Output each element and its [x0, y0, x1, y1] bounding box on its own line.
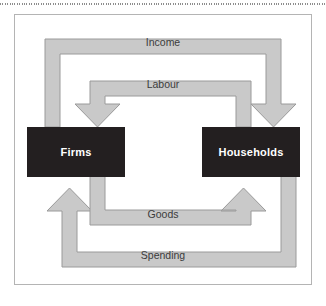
flow-label-spending: Spending: [141, 249, 185, 261]
entity-label-firms: Firms: [61, 146, 92, 158]
flow-label-income: Income: [146, 36, 180, 48]
circular-flow-figure: Income Labour Goods Spending Firms House…: [0, 0, 326, 306]
entity-label-households: Households: [219, 146, 284, 158]
flow-label-labour: Labour: [147, 78, 180, 90]
entity-box-households: Households: [202, 127, 300, 177]
entity-box-firms: Firms: [27, 127, 125, 177]
dotted-divider-icon: [0, 3, 326, 5]
flow-label-goods: Goods: [148, 208, 179, 220]
